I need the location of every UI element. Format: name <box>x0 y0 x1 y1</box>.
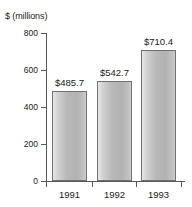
y-axis-line <box>46 33 47 182</box>
x-tick-mark-left <box>46 182 47 187</box>
y-tick-label-400: 400 <box>2 103 38 112</box>
bar-chart: $ (millions) 800 600 400 200 0 $485.7 $5… <box>0 0 192 207</box>
bar-value-label-1992: $542.7 <box>87 68 142 78</box>
bar-value-label-1993: $710.4 <box>131 37 186 47</box>
y-tick-label-400-wrap: 400 <box>0 103 38 112</box>
chart-axis-units-label: $ (millions) <box>5 11 47 21</box>
x-tick-mark-1 <box>92 182 93 187</box>
y-tick-label-800-wrap: 800 <box>0 29 38 38</box>
x-category-label-1993: 1993 <box>131 190 186 200</box>
y-tick-label-800: 800 <box>2 29 38 38</box>
y-tick-label-200-wrap: 200 <box>0 140 38 149</box>
y-tick-mark-800 <box>41 33 46 34</box>
bar-1993 <box>141 50 176 181</box>
y-tick-mark-600 <box>41 70 46 71</box>
y-tick-label-0-wrap: 0 <box>0 177 38 186</box>
bar-1992 <box>97 81 132 181</box>
bar-1991 <box>52 91 87 181</box>
y-tick-label-0: 0 <box>2 177 38 186</box>
bar-value-label-1991: $485.7 <box>42 78 97 88</box>
y-tick-label-600-wrap: 600 <box>0 66 38 75</box>
x-axis-line <box>46 181 185 182</box>
y-tick-mark-200 <box>41 144 46 145</box>
y-tick-label-200: 200 <box>2 140 38 149</box>
y-tick-mark-400 <box>41 107 46 108</box>
y-tick-label-600: 600 <box>2 66 38 75</box>
x-tick-mark-right <box>181 182 182 187</box>
x-tick-mark-2 <box>136 182 137 187</box>
